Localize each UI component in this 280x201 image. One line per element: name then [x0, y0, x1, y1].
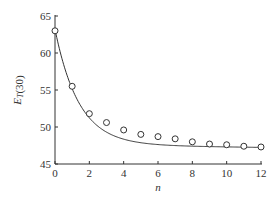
data-point: [52, 28, 58, 34]
y-tick-label: 60: [40, 47, 52, 59]
y-tick-label: 50: [40, 121, 52, 133]
data-point: [189, 139, 195, 145]
data-point: [69, 83, 75, 89]
data-point: [155, 134, 161, 140]
x-tick-label: 4: [121, 167, 127, 179]
x-tick-label: 12: [256, 167, 267, 179]
y-axis-label: ET(30): [11, 75, 26, 106]
data-point: [258, 144, 264, 150]
fit-curve: [55, 29, 261, 147]
chart: 0246810124550556065 n ET(30): [0, 0, 280, 201]
x-axis-label: n: [155, 181, 161, 193]
y-tick-label: 65: [40, 10, 52, 22]
data-point: [121, 127, 127, 133]
data-point: [224, 142, 230, 148]
y-axis-label-suffix: (30): [13, 75, 26, 94]
data-point: [104, 120, 110, 126]
data-point: [138, 131, 144, 137]
x-tick-label: 2: [87, 167, 93, 179]
y-tick-label: 45: [40, 158, 52, 170]
x-tick-label: 6: [155, 167, 161, 179]
x-tick-label: 10: [221, 167, 233, 179]
data-point: [86, 111, 92, 117]
data-point: [207, 141, 213, 147]
marks: [52, 28, 264, 150]
x-tick-label: 0: [52, 167, 58, 179]
axes: 0246810124550556065: [40, 10, 267, 179]
x-tick-label: 8: [190, 167, 196, 179]
y-tick-label: 55: [40, 84, 52, 96]
data-point: [241, 143, 247, 149]
data-point: [172, 136, 178, 142]
